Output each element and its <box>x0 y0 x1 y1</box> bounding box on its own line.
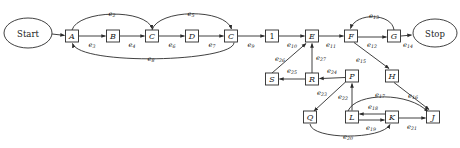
edge-label-e5: e5 <box>188 10 195 18</box>
node-label-R: R <box>308 75 315 84</box>
edge-label-e23: e23 <box>317 89 327 97</box>
node-label-P: P <box>348 72 355 81</box>
node-label-D: D <box>188 32 196 41</box>
node-Q[interactable]: Q <box>304 111 317 123</box>
node-label-E: E <box>308 32 315 41</box>
edge-label-e7: e7 <box>209 41 216 49</box>
node-label-L: L <box>348 113 354 122</box>
node-label-1: 1 <box>269 32 274 41</box>
node-C2[interactable]: C <box>225 30 238 42</box>
edge-label-e15: e15 <box>356 56 366 64</box>
node-label-stop: Stop <box>425 29 445 39</box>
node-C1[interactable]: C <box>146 30 159 42</box>
edge-label-e14: e14 <box>403 41 413 49</box>
edge-label-e24: e24 <box>327 67 337 75</box>
edge-e20 <box>310 124 390 136</box>
node-label-start: Start <box>17 29 39 39</box>
edge-label-e10: e10 <box>287 41 297 49</box>
edge-label-e18: e18 <box>368 103 378 111</box>
edge-label-e26: e26 <box>275 55 285 63</box>
node-label-A: A <box>68 32 75 41</box>
edge-e14 <box>401 35 412 36</box>
edge-label-e19: e19 <box>366 124 376 132</box>
edge-e1 <box>52 34 65 35</box>
edge-label-e11: e11 <box>326 41 336 49</box>
node-K[interactable]: K <box>386 111 399 123</box>
node-A[interactable]: A <box>66 30 79 42</box>
edge-label-e8: e8 <box>148 55 155 63</box>
node-R[interactable]: R <box>306 73 319 85</box>
node-start[interactable]: Start <box>4 18 52 48</box>
node-F[interactable]: F <box>345 30 358 42</box>
edge-label-e2: e2 <box>109 10 116 18</box>
edge-label-e13: e13 <box>369 12 379 20</box>
node-E[interactable]: E <box>306 30 319 42</box>
node-stop[interactable]: Stop <box>413 19 457 47</box>
node-label-Q: Q <box>307 113 314 122</box>
node-label-G: G <box>391 32 398 41</box>
node-J[interactable]: J <box>427 111 440 123</box>
node-label-C1: C <box>149 32 155 41</box>
edge-e24 <box>320 78 346 79</box>
node-S[interactable]: S <box>266 73 279 85</box>
edge-label-e20: e20 <box>343 133 353 141</box>
edge-label-e16: e16 <box>408 92 418 100</box>
edge-label-e25: e25 <box>287 67 297 75</box>
node-D[interactable]: D <box>186 30 199 42</box>
node-label-B: B <box>109 32 116 41</box>
graph-canvas: e1 e2 e3 e4 e5 e6 e7 e8 e9 e10 e11 e12 e… <box>0 0 460 148</box>
edge-label-e22: e22 <box>338 93 348 101</box>
nodes-layer: Start A B C D C <box>4 18 457 123</box>
node-label-S: S <box>269 75 275 84</box>
node-L[interactable]: L <box>346 111 359 123</box>
edge-label-e4: e4 <box>129 41 136 49</box>
node-H[interactable]: H <box>386 70 399 82</box>
edge-label-e12: e12 <box>367 41 377 49</box>
edge-label-e27: e27 <box>316 54 326 62</box>
edge-label-e3: e3 <box>89 41 96 49</box>
node-G[interactable]: G <box>388 30 401 42</box>
edge-label-e21: e21 <box>407 123 417 131</box>
node-label-F: F <box>347 32 354 41</box>
node-1[interactable]: 1 <box>266 30 279 42</box>
edge-label-e17: e17 <box>375 91 385 99</box>
node-B[interactable]: B <box>107 30 120 42</box>
graph-diagram: e1 e2 e3 e4 e5 e6 e7 e8 e9 e10 e11 e12 e… <box>0 0 460 148</box>
node-label-H: H <box>388 72 397 81</box>
edge-label-e6: e6 <box>169 41 176 49</box>
node-label-K: K <box>388 113 396 122</box>
node-label-C2: C <box>228 32 234 41</box>
node-P[interactable]: P <box>346 70 359 82</box>
edge-label-e9: e9 <box>248 41 255 49</box>
